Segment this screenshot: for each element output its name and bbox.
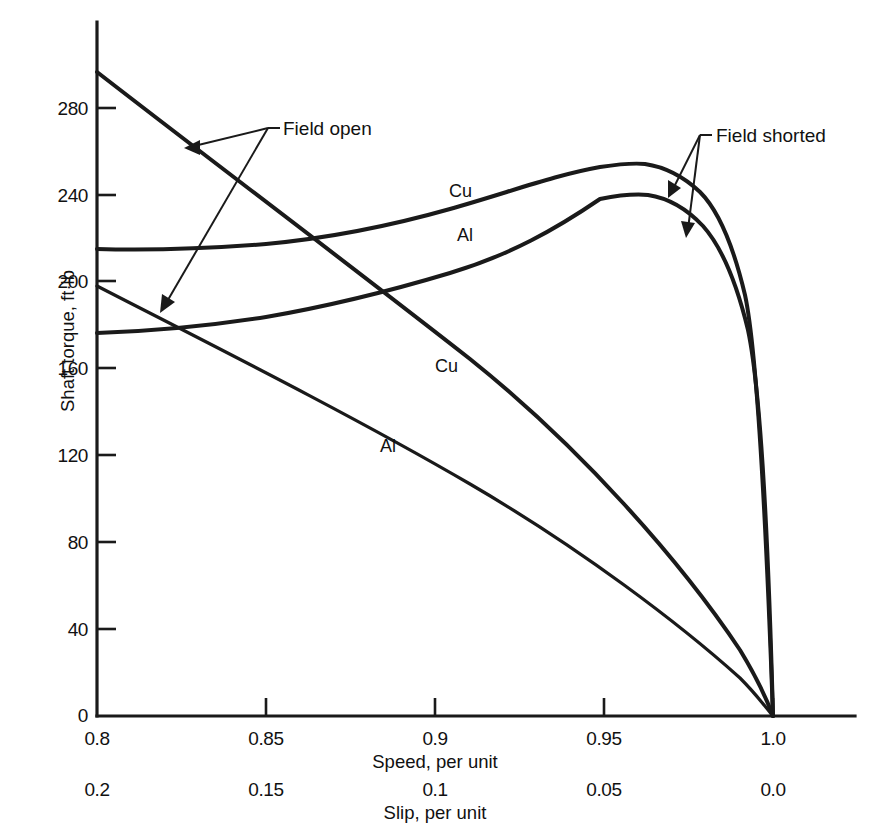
x-tick-label-0-85: 0.85 [248,728,283,749]
curve-al-field-shorted [97,195,773,716]
x-tick-group [266,698,773,716]
y-tick-label-0: 0 [78,705,88,726]
x-tick-label-0-9: 0.9 [422,728,447,749]
annotation-field-open: Field open [160,118,372,313]
field-shorted-arrowhead-lower [681,221,695,238]
torque-speed-chart: 280 240 200 160 120 80 40 0 0.8 0.85 0.9… [0,0,878,829]
figure-caption-partial [38,818,838,827]
slip-tick-label-group: 0.2 0.15 0.1 0.05 0.0 [84,779,785,800]
y-tick-label-280: 280 [57,98,88,119]
y-tick-label-40: 40 [68,619,88,640]
series-label-al-open: Al [380,436,396,456]
x-tick-label-1-0: 1.0 [760,728,785,749]
slip-tick-label-0-15: 0.15 [248,779,283,800]
y-tick-label-240: 240 [57,185,88,206]
series-label-cu-open: Cu [435,356,458,376]
field-open-arrowhead-lower [160,294,175,313]
field-shorted-arrowhead-upper [668,180,681,198]
torque-speed-figure: 280 240 200 160 120 80 40 0 0.8 0.85 0.9… [0,0,878,829]
x-tick-label-0-95: 0.95 [586,728,621,749]
y-axis-title: Shaft torque, ft·lb [57,211,79,471]
y-tick-label-80: 80 [68,532,88,553]
y-tick-group [97,108,116,629]
series-label-al-shorted: Al [457,225,473,245]
slip-tick-label-0-1: 0.1 [422,779,447,800]
slip-tick-label-0-2: 0.2 [84,779,109,800]
field-shorted-label: Field shorted [716,125,826,146]
x-tick-label-0-8: 0.8 [84,728,109,749]
curve-al-field-open [97,286,773,716]
x-tick-label-group: 0.8 0.85 0.9 0.95 1.0 [84,728,785,749]
slip-tick-label-0-0: 0.0 [760,779,785,800]
field-open-leader-upper [190,128,268,147]
annotation-field-shorted: Field shorted [668,125,826,238]
slip-tick-label-0-05: 0.05 [586,779,621,800]
field-open-leader-lower [165,128,268,305]
series-label-cu-shorted: Cu [449,181,472,201]
x-axis-title: Speed, per unit [372,751,497,772]
field-open-label: Field open [283,118,372,139]
